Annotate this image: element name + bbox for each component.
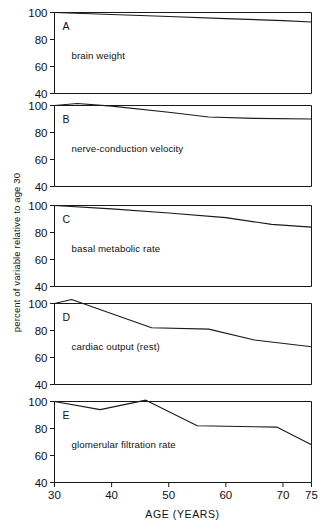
chart-panel-e: 406080100304050607075Eglomerular filtrat… <box>28 396 318 501</box>
panel-letter: D <box>63 311 71 323</box>
y-tick-label: 60 <box>35 254 48 266</box>
panel-letter: E <box>63 409 70 421</box>
multi-panel-line-chart: 406080100Abrain weight406080100Bnerve-co… <box>0 0 326 530</box>
x-tick-label: 60 <box>219 489 232 501</box>
y-tick-label: 80 <box>35 227 48 239</box>
y-tick-label: 40 <box>35 281 48 293</box>
y-tick-label: 100 <box>28 100 47 112</box>
data-curve <box>55 206 312 228</box>
y-tick-label: 80 <box>35 34 48 46</box>
chart-panel-c: 406080100Cbasal metabolic rate <box>28 200 311 293</box>
y-tick-label: 80 <box>35 423 48 435</box>
series-label: basal metabolic rate <box>72 243 161 254</box>
y-tick-label: 40 <box>35 181 48 193</box>
y-tick-label: 80 <box>35 325 48 337</box>
x-tick-label: 40 <box>105 489 118 501</box>
y-tick-label: 80 <box>35 127 48 139</box>
figure-container: percent of variable relative to age 30 A… <box>0 0 326 530</box>
y-tick-label: 60 <box>35 352 48 364</box>
series-label: glomerular filtration rate <box>72 439 176 450</box>
panel-letter: C <box>63 213 71 225</box>
y-tick-label: 40 <box>35 88 48 100</box>
panel-letter: B <box>63 113 70 125</box>
panel-letter: A <box>63 20 70 32</box>
chart-panel-a: 406080100Abrain weight <box>28 7 311 100</box>
x-tick-label: 75 <box>305 489 318 501</box>
data-curve <box>55 13 312 22</box>
y-tick-label: 40 <box>35 477 48 489</box>
y-tick-label: 100 <box>28 396 47 408</box>
y-tick-label: 60 <box>35 154 48 166</box>
series-label: brain weight <box>72 50 126 61</box>
x-tick-label: 70 <box>277 489 290 501</box>
y-tick-label: 100 <box>28 298 47 310</box>
series-label: nerve-conduction velocity <box>72 143 184 154</box>
x-tick-label: 50 <box>162 489 175 501</box>
y-tick-label: 60 <box>35 450 48 462</box>
y-tick-label: 100 <box>28 7 47 19</box>
x-axis-title: AGE (YEARS) <box>54 508 311 520</box>
y-tick-label: 40 <box>35 379 48 391</box>
y-tick-label: 60 <box>35 61 48 73</box>
x-tick-label: 30 <box>48 489 61 501</box>
chart-panel-b: 406080100Bnerve-conduction velocity <box>28 100 311 193</box>
y-tick-label: 100 <box>28 200 47 212</box>
series-label: cardiac output (rest) <box>72 341 160 352</box>
chart-panel-d: 406080100Dcardiac output (rest) <box>28 298 311 391</box>
y-axis-title: percent of variable relative to age 30 <box>11 133 22 373</box>
